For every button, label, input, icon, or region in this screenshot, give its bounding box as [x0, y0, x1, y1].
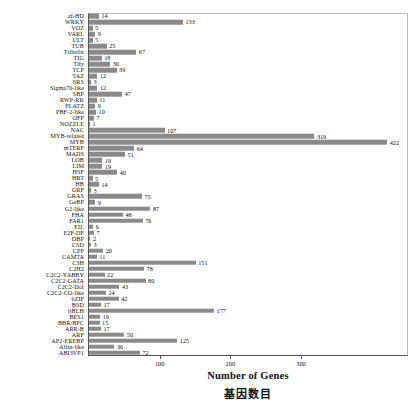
bar-with-value: 51 [89, 152, 134, 157]
bar [89, 188, 91, 193]
bar [89, 44, 107, 49]
x-axis-tick [230, 356, 231, 359]
bar [89, 56, 102, 61]
bar [89, 284, 119, 289]
bar [89, 194, 142, 199]
bar [89, 104, 95, 109]
bar-with-value: 18 [89, 56, 110, 61]
bar [89, 206, 150, 211]
bar-with-value: 17 [89, 302, 110, 307]
bar-with-value: 48 [89, 212, 132, 217]
bar [89, 212, 123, 217]
bar-with-value: 17 [89, 327, 110, 332]
bar [89, 224, 93, 229]
x-axis-tick-label: 200 [226, 360, 235, 367]
bar [89, 236, 90, 241]
bar-with-value: 30 [89, 62, 119, 67]
bar [89, 260, 196, 265]
x-axis-tick-label: 100 [155, 360, 164, 367]
bar-row: ABI3VP172 [88, 350, 408, 356]
bar [89, 327, 101, 332]
bar-with-value: 422 [89, 140, 399, 145]
bar [89, 290, 106, 295]
bar-with-value: 3 [89, 188, 97, 193]
bar-with-value: 5 [89, 38, 98, 43]
bar [89, 200, 95, 205]
bar-with-value: 5 [89, 176, 98, 181]
transcription-factor-family-bar-chart: zf-HD14WRKY133VOZ5VARL9ULT5TUB25Trihelix… [0, 0, 420, 413]
bar [89, 272, 105, 277]
bar-with-value: 36 [89, 345, 123, 350]
bar [89, 92, 122, 97]
bar [89, 242, 91, 247]
bar [89, 80, 91, 85]
bar-with-value: 50 [89, 333, 133, 338]
bar-with-value: 12 [89, 74, 106, 79]
bar [89, 26, 93, 31]
bar [89, 110, 96, 115]
bar [89, 98, 97, 103]
bar-with-value: 319 [89, 134, 326, 139]
bar [89, 50, 136, 55]
bar [89, 122, 90, 127]
bar [89, 164, 102, 169]
bar-with-value: 1 [89, 122, 95, 127]
bar-with-value: 3 [89, 80, 97, 85]
bar [89, 333, 124, 338]
bar-with-value: 22 [89, 272, 113, 277]
x-axis-tick-label: 300 [296, 360, 305, 367]
bar [89, 14, 99, 19]
bar [89, 339, 177, 344]
bar-with-value: 78 [89, 266, 153, 271]
x-axis-title-en: Number of Genes [88, 370, 408, 381]
bar [89, 170, 117, 175]
bar-with-value: 47 [89, 92, 131, 97]
bar [89, 20, 183, 25]
bar-with-value: 12 [89, 86, 106, 91]
bar [89, 134, 314, 139]
bar-with-value: 14 [89, 14, 108, 19]
bar [89, 38, 93, 43]
bar [89, 351, 140, 356]
bar-with-value: 11 [89, 254, 105, 259]
bar-with-value: 14 [89, 182, 108, 187]
bar [89, 314, 100, 319]
bar [89, 278, 146, 283]
bar-with-value: 64 [89, 146, 143, 151]
bar [89, 176, 93, 181]
bar-with-value: 19 [89, 164, 111, 169]
x-axis-title-zh: 基因数目 [88, 385, 408, 401]
bar [89, 140, 387, 145]
bar [89, 86, 97, 91]
bar [89, 158, 102, 163]
bar-with-value: 107 [89, 128, 176, 133]
x-axis-tick [301, 356, 302, 359]
bar-with-value: 3 [89, 242, 97, 247]
bar [89, 321, 100, 326]
bar-with-value: 5 [89, 26, 98, 31]
bar-with-value: 67 [89, 50, 145, 55]
bar [89, 62, 110, 67]
bar-rows-container: zf-HD14WRKY133VOZ5VARL9ULT5TUB25Trihelix… [88, 13, 408, 356]
bar [89, 266, 144, 271]
bar-with-value: 25 [89, 44, 115, 49]
bar [89, 254, 97, 259]
bar-with-value: 24 [89, 290, 115, 295]
bar-with-value: 125 [89, 339, 189, 344]
bar-with-value: 177 [89, 308, 226, 313]
x-axis-tick [160, 356, 161, 359]
bar [89, 302, 101, 307]
bar-with-value: 72 [89, 351, 149, 356]
bar-with-value: 87 [89, 206, 159, 211]
bar-with-value: 39 [89, 68, 125, 73]
category-label: ABI3VP1 [59, 350, 84, 356]
bar-with-value: 133 [89, 20, 195, 25]
bar-with-value: 9 [89, 200, 101, 205]
bar [89, 345, 114, 350]
bar [89, 128, 165, 133]
x-axis: 100200300 [88, 356, 408, 370]
